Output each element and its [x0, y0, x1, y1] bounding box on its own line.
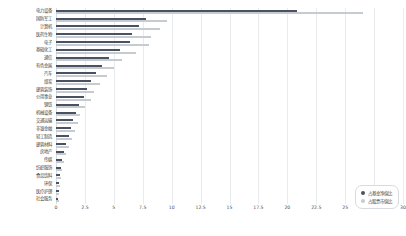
y-tick-label: 电子	[0, 41, 52, 46]
y-tick-label: 电力设备	[0, 9, 52, 14]
y-tick-label: 食品饮料	[0, 174, 52, 179]
x-tick-label: 15	[227, 205, 233, 210]
plot-area	[56, 8, 403, 204]
legend-label: 占基金净值比	[368, 190, 392, 196]
x-axis-tick-labels: 02.557.51012.51517.52022.52527.530	[56, 205, 403, 217]
gridline	[403, 8, 404, 204]
bar	[56, 146, 69, 148]
legend-label: 占股票市值比	[368, 198, 392, 204]
bar	[56, 91, 94, 93]
bar	[56, 185, 60, 187]
bar	[56, 106, 85, 108]
bar	[56, 130, 75, 132]
x-tick-label: 2.5	[81, 205, 88, 210]
x-tick-label: 5	[112, 205, 115, 210]
bar	[56, 12, 363, 14]
y-tick-label: 机械设备	[0, 111, 52, 116]
x-tick-label: 0	[55, 205, 58, 210]
y-tick-label: 交通运输	[0, 119, 52, 124]
bar	[56, 44, 149, 46]
bar	[56, 36, 151, 38]
y-tick-label: 非银金融	[0, 127, 52, 132]
y-tick-label: 有色金属	[0, 64, 52, 69]
legend-swatch-icon	[361, 199, 365, 203]
legend-swatch-icon	[361, 191, 365, 195]
y-tick-label: 社会服务	[0, 197, 52, 202]
y-tick-label: 钢铁	[0, 103, 52, 108]
y-tick-label: 煤炭	[0, 80, 52, 85]
x-tick-label: 7.5	[139, 205, 146, 210]
y-tick-label: 医药生物	[0, 33, 52, 38]
legend-item-stock-value-ratio[interactable]: 占股票市值比	[361, 197, 392, 205]
bar	[56, 20, 167, 22]
x-tick-label: 20	[284, 205, 290, 210]
x-tick-label: 17.5	[253, 205, 263, 210]
y-tick-label: 国防军工	[0, 17, 52, 22]
x-tick-label: 30	[400, 205, 406, 210]
bar	[56, 200, 59, 202]
bar	[56, 28, 160, 30]
bar	[56, 122, 78, 124]
bar	[56, 138, 72, 140]
bar	[56, 177, 61, 179]
legend-item-fund-nav-ratio[interactable]: 占基金净值比	[361, 189, 392, 197]
y-tick-label: 建筑材料	[0, 143, 52, 148]
bar	[56, 52, 136, 54]
bar	[56, 114, 80, 116]
y-tick-label: 轻工制造	[0, 135, 52, 140]
bar	[56, 75, 107, 77]
y-tick-label: 计算机	[0, 25, 52, 30]
y-tick-label: 基础化工	[0, 48, 52, 53]
y-axis-category-labels: 电力设备国防军工计算机医药生物电子基础化工通信有色金属汽车煤炭建筑装饰公用事业钢…	[0, 8, 54, 204]
x-tick-label: 22.5	[311, 205, 321, 210]
bar	[56, 193, 59, 195]
x-tick-label: 25	[342, 205, 348, 210]
y-tick-label: 纺织服饰	[0, 166, 52, 171]
y-tick-label: 传媒	[0, 158, 52, 163]
bar	[56, 83, 100, 85]
y-tick-label: 汽车	[0, 72, 52, 77]
bar	[56, 67, 114, 69]
bar-rows	[56, 8, 403, 204]
y-tick-label: 建筑装饰	[0, 88, 52, 93]
y-tick-label: 公用事业	[0, 95, 52, 100]
bar	[56, 153, 66, 155]
y-tick-label: 房地产	[0, 150, 52, 155]
chart-legend: 占基金净值比 占股票市值比	[355, 185, 399, 209]
y-tick-label: 环保	[0, 182, 52, 187]
bar	[56, 161, 64, 163]
x-tick-label: 12.5	[195, 205, 205, 210]
y-tick-label: 通信	[0, 56, 52, 61]
bar	[56, 99, 91, 101]
y-tick-label: 医疗护理	[0, 190, 52, 195]
x-tick-label: 10	[169, 205, 175, 210]
bar	[56, 59, 122, 61]
bar	[56, 169, 62, 171]
